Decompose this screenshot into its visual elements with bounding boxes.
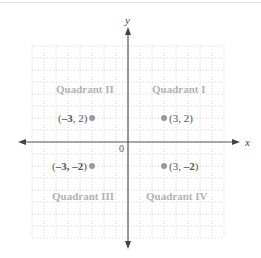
quadrant-i-label: Quadrant I <box>152 83 206 95</box>
y-axis-down-arrow-icon <box>125 241 131 249</box>
y-axis-up-arrow-icon <box>125 27 131 35</box>
quadrant-iv-label: Quadrant IV <box>146 190 207 202</box>
x-axis-right-arrow-icon <box>232 139 240 145</box>
y-axis-label: y <box>124 14 130 26</box>
point-neg3-neg2 <box>89 163 95 169</box>
point-neg3-2 <box>89 115 95 121</box>
point-3-neg2 <box>161 163 167 169</box>
coordinate-plane: x y 0 Quadrant I Quadrant II Quadrant II… <box>0 0 261 258</box>
point-label-3-neg2: (3, –2) <box>169 160 199 173</box>
quadrant-ii-label: Quadrant II <box>56 83 114 95</box>
point-label-neg3-neg2: (–3, –2) <box>52 160 87 173</box>
x-axis-left-arrow-icon <box>18 139 26 145</box>
point-3-2 <box>161 115 167 121</box>
point-label-neg3-2: (–3, 2) <box>58 112 88 125</box>
x-axis-label: x <box>244 136 250 148</box>
point-label-3-2: (3, 2) <box>169 112 193 125</box>
origin-label: 0 <box>119 143 124 154</box>
quadrant-iii-label: Quadrant III <box>52 190 114 202</box>
